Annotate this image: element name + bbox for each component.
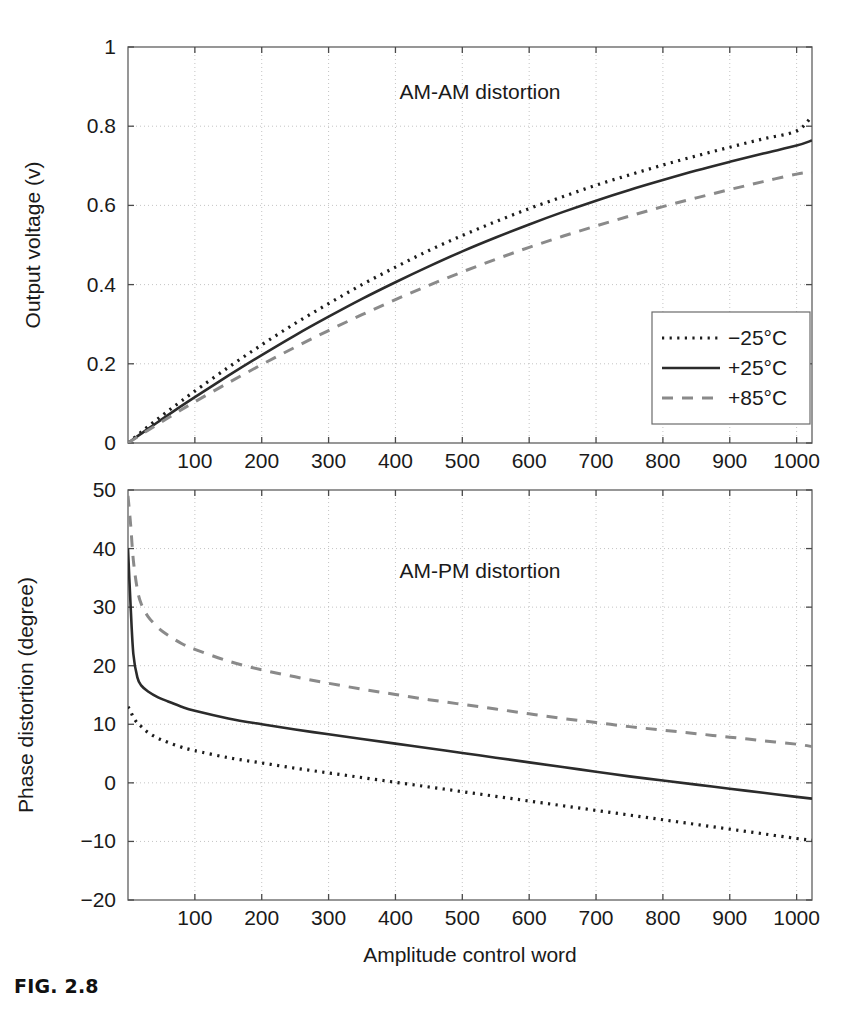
y-tick-label: 0.8	[87, 114, 116, 137]
figure-svg: 100200300400500600700800900100000.20.40.…	[0, 0, 867, 1017]
legend-label: +25°C	[728, 356, 787, 379]
plot-am-pm: 1002003004005006007008009001000−20−10010…	[14, 478, 820, 966]
figure-container: 100200300400500600700800900100000.20.40.…	[0, 0, 867, 1017]
x-tick-label: 1000	[773, 906, 820, 929]
x-tick-label: 900	[712, 906, 747, 929]
legend-label: −25°C	[728, 326, 787, 349]
y-tick-label: 0.6	[87, 193, 116, 216]
y-tick-label: 0.4	[87, 273, 117, 296]
y-tick-label: 30	[93, 595, 116, 618]
x-tick-label: 700	[579, 906, 614, 929]
legend: −25°C+25°C+85°C	[652, 312, 810, 424]
x-tick-label: 400	[378, 906, 413, 929]
x-tick-label: 100	[177, 449, 212, 472]
x-axis-label-am-pm: Amplitude control word	[363, 943, 577, 966]
y-tick-label: 10	[93, 712, 116, 735]
x-tick-label: 200	[244, 906, 279, 929]
y-tick-label: 0	[104, 771, 116, 794]
y-tick-label: −10	[80, 829, 116, 852]
series-85C	[128, 496, 812, 747]
x-tick-label: 500	[445, 906, 480, 929]
y-tick-label: −20	[80, 888, 116, 911]
y-tick-label: 50	[93, 478, 116, 501]
y-tick-label: 40	[93, 537, 116, 560]
x-tick-label: 800	[645, 906, 680, 929]
x-tick-label: 100	[177, 906, 212, 929]
x-tick-label: 1000	[773, 449, 820, 472]
x-tick-label: 600	[512, 906, 547, 929]
series-layer	[128, 496, 812, 840]
x-tick-label: 800	[645, 449, 680, 472]
y-tick-label: 0	[104, 431, 116, 454]
y-tick-label: 20	[93, 654, 116, 677]
x-tick-label: 900	[712, 449, 747, 472]
y-tick-label: 0.2	[87, 352, 116, 375]
figure-caption: FIG. 2.8	[14, 975, 99, 997]
series-25C	[128, 707, 812, 841]
x-tick-label: 500	[445, 449, 480, 472]
x-tick-label: 300	[311, 449, 346, 472]
plot-title-am-pm: AM-PM distortion	[399, 559, 560, 582]
legend-label: +85°C	[728, 386, 787, 409]
x-tick-label: 300	[311, 906, 346, 929]
series-25C	[128, 549, 812, 799]
x-tick-label: 600	[512, 449, 547, 472]
x-tick-label: 200	[244, 449, 279, 472]
y-axis-label-am-pm: Phase distortion (degree)	[14, 577, 37, 813]
y-tick-label: 1	[104, 35, 116, 58]
x-tick-label: 700	[579, 449, 614, 472]
y-axis-label-am-am: Output voltage (v)	[21, 162, 44, 329]
x-tick-label: 400	[378, 449, 413, 472]
plot-title-am-am: AM-AM distortion	[399, 80, 560, 103]
